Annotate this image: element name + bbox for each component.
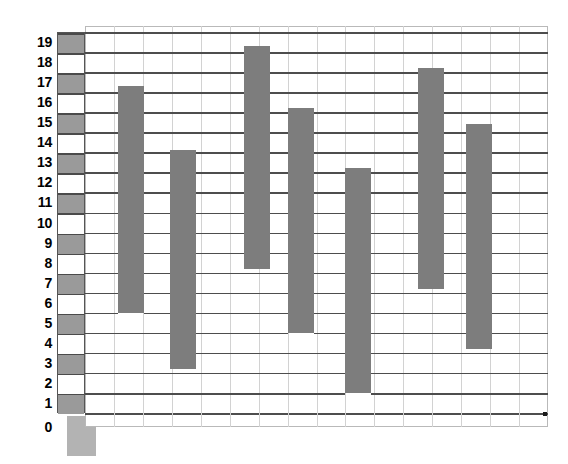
- horizontal-gridline: [314, 152, 418, 154]
- legend-stripe-cell-rule: [58, 294, 84, 296]
- horizontal-gridline: [371, 192, 418, 194]
- horizontal-gridline: [85, 72, 244, 74]
- legend-stripe-cell-rule: [58, 133, 84, 135]
- y-axis-tick-label: 6: [18, 296, 52, 310]
- horizontal-gridline: [196, 213, 244, 215]
- horizontal-gridline: [85, 172, 118, 174]
- legend-stripe-cell: [58, 93, 84, 113]
- horizontal-gridline: [196, 293, 288, 295]
- legend-stripe-cell: [58, 153, 84, 173]
- legend-stripe-cell-rule: [58, 254, 84, 256]
- legend-stripe-cell: [58, 213, 84, 233]
- horizontal-gridline: [314, 233, 345, 235]
- horizontal-gridline: [144, 132, 244, 134]
- legend-stripe-cell-rule: [58, 314, 84, 316]
- legend-stripe-cell-rule: [58, 374, 84, 376]
- y-axis-tick-label: 2: [18, 376, 52, 390]
- horizontal-gridline: [371, 213, 418, 215]
- horizontal-gridline: [444, 152, 466, 154]
- horizontal-gridline: [492, 192, 548, 194]
- legend-stripe-cell: [58, 113, 84, 133]
- legend-stripe-cell-rule: [58, 173, 84, 175]
- horizontal-gridline: [85, 152, 118, 154]
- horizontal-gridline: [270, 152, 288, 154]
- y-axis-tick-label: 16: [18, 95, 52, 109]
- legend-stripe-cell-rule: [58, 193, 84, 195]
- legend-stripe-cell-rule: [58, 53, 84, 55]
- horizontal-gridline: [492, 313, 548, 315]
- horizontal-gridline: [314, 213, 345, 215]
- horizontal-gridline: [492, 213, 548, 215]
- bar: [170, 150, 196, 369]
- horizontal-gridline: [492, 293, 548, 295]
- y-axis-tick-label: 17: [18, 75, 52, 89]
- legend-stripe-cell-rule: [58, 394, 84, 396]
- horizontal-gridline: [144, 253, 170, 255]
- legend-stripe-cell: [58, 374, 84, 394]
- horizontal-gridline: [270, 192, 288, 194]
- legend-stripe-cell-rule: [58, 93, 84, 95]
- horizontal-gridline: [371, 393, 548, 395]
- y-axis-tick-label: 5: [18, 316, 52, 330]
- y-axis-tick-label: 8: [18, 256, 52, 270]
- horizontal-gridline: [492, 253, 548, 255]
- horizontal-gridline: [444, 253, 466, 255]
- legend-stripe-cell: [58, 354, 84, 374]
- horizontal-gridline: [371, 333, 466, 335]
- y-axis-tick-label: 4: [18, 336, 52, 350]
- y-axis-tick-label: 3: [18, 356, 52, 370]
- y-axis-tick-label: 7: [18, 276, 52, 290]
- x-axis-endcap-marker: [543, 412, 547, 416]
- horizontal-gridline: [371, 353, 548, 355]
- horizontal-gridline: [85, 112, 118, 114]
- y-axis-tick-label: 9: [18, 236, 52, 250]
- legend-stripe-cell-rule: [58, 274, 84, 276]
- horizontal-gridline: [270, 253, 288, 255]
- y-axis-tick-label: 12: [18, 175, 52, 189]
- horizontal-gridline: [444, 233, 466, 235]
- horizontal-gridline: [196, 172, 244, 174]
- horizontal-gridline: [314, 293, 345, 295]
- horizontal-gridline: [270, 233, 288, 235]
- horizontal-gridline: [444, 132, 466, 134]
- horizontal-gridline: [144, 293, 170, 295]
- horizontal-gridline: [371, 233, 418, 235]
- horizontal-gridline: [144, 112, 244, 114]
- horizontal-gridline: [85, 32, 548, 34]
- horizontal-gridline: [270, 172, 288, 174]
- horizontal-gridline: [270, 112, 288, 114]
- horizontal-gridline: [144, 172, 170, 174]
- horizontal-gridline: [444, 213, 466, 215]
- horizontal-gridline: [196, 273, 288, 275]
- horizontal-gridline: [270, 132, 288, 134]
- horizontal-gridline: [314, 273, 345, 275]
- y-axis-tick-label: 14: [18, 135, 52, 149]
- legend-stripe-cell-rule: [58, 334, 84, 336]
- horizontal-gridline: [314, 192, 345, 194]
- horizontal-gridline: [196, 253, 244, 255]
- horizontal-gridline: [85, 313, 118, 315]
- legend-stripe-cell-rule: [58, 354, 84, 356]
- horizontal-gridline: [144, 192, 170, 194]
- horizontal-gridline: [270, 72, 418, 74]
- horizontal-gridline: [444, 112, 548, 114]
- horizontal-gridline: [196, 233, 244, 235]
- y-axis-tick-label: 19: [18, 35, 52, 49]
- legend-stripe-cell: [58, 173, 84, 193]
- horizontal-gridline: [314, 333, 345, 335]
- horizontal-gridline: [85, 92, 118, 94]
- horizontal-gridline: [85, 192, 118, 194]
- horizontal-gridline: [144, 273, 170, 275]
- horizontal-gridline: [85, 293, 118, 295]
- legend-stripe-cell: [58, 254, 84, 274]
- y-axis: 012345678910111213141516171819: [0, 0, 52, 464]
- legend-stripe-cell: [58, 314, 84, 334]
- horizontal-gridline: [492, 273, 548, 275]
- y-axis-tick-label: 11: [18, 195, 52, 209]
- horizontal-gridline: [144, 213, 170, 215]
- bar-chart: 012345678910111213141516171819: [0, 0, 568, 464]
- horizontal-gridline: [492, 333, 548, 335]
- vertical-gridline: [317, 26, 318, 427]
- y-axis-tick-label: 18: [18, 55, 52, 69]
- legend-stripe-cell: [58, 334, 84, 354]
